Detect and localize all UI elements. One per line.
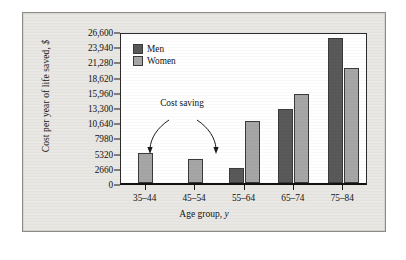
- x-axis-tick-mark: [342, 185, 343, 190]
- y-axis-title-unit: $: [41, 40, 51, 45]
- x-axis-tick-label: 55–64: [232, 193, 255, 203]
- x-axis-tick-label: 45–54: [182, 193, 205, 203]
- legend: Men Women: [133, 44, 176, 68]
- y-axis-tick-label: 5320: [95, 150, 113, 160]
- x-axis-tick-label: 35–44: [133, 193, 156, 203]
- y-axis-tick-label: 2660: [95, 165, 113, 175]
- bar-men-75–84: [328, 38, 343, 183]
- bar-women-35–44: [138, 153, 153, 183]
- y-axis-tick-labels: 026605320798010,64013,30015,96018,62021,…: [63, 27, 120, 191]
- figure-panel: Cost per year of life saved, $ 026605320…: [22, 12, 386, 232]
- bar-men-55–64: [229, 168, 244, 183]
- x-axis-tick-mark: [145, 185, 146, 190]
- y-axis-tick-label: 10,640: [88, 119, 113, 129]
- bar-women-55–64: [245, 121, 260, 183]
- bar-women-65–74: [294, 94, 309, 183]
- x-axis-title-text: Age group,: [179, 209, 224, 219]
- legend-item-men: Men: [133, 44, 176, 54]
- x-axis-tick-mark: [293, 185, 294, 190]
- x-axis-title: Age group, y: [23, 209, 385, 219]
- legend-label-women: Women: [147, 56, 176, 66]
- legend-swatch-women-icon: [133, 56, 143, 66]
- y-axis-tick-label: 7980: [95, 134, 113, 144]
- y-axis-title: Cost per year of life saved, $: [41, 21, 51, 171]
- y-axis-title-text: Cost per year of life saved,: [41, 45, 51, 153]
- plot-area: Men Women Cost saving: [120, 33, 367, 185]
- y-axis-tick-label: 18,620: [88, 74, 113, 84]
- y-axis-tick-label: 15,960: [88, 89, 113, 99]
- bar-women-75–84: [344, 68, 359, 183]
- y-axis-tick-label: 23,940: [88, 43, 113, 53]
- y-axis-tick-label: 0: [108, 180, 113, 190]
- cost-saving-annotation: Cost saving: [159, 98, 205, 109]
- x-axis-tick-mark: [194, 185, 195, 190]
- legend-swatch-men-icon: [133, 44, 143, 54]
- x-axis-tick-label: 65–74: [281, 193, 304, 203]
- y-axis-tick-label: 13,300: [88, 104, 113, 114]
- bar-women-45–54: [188, 159, 203, 183]
- y-axis-tick-label: 26,600: [88, 28, 113, 38]
- x-axis-tick-mark: [244, 185, 245, 190]
- legend-label-men: Men: [147, 44, 164, 54]
- x-axis-title-unit: y: [224, 209, 228, 219]
- bar-men-65–74: [278, 109, 293, 183]
- y-axis-tick-label: 21,280: [88, 58, 113, 68]
- figure-page: Cost per year of life saved, $ 026605320…: [0, 0, 406, 260]
- x-axis-tick-label: 75–84: [331, 193, 354, 203]
- legend-item-women: Women: [133, 56, 176, 66]
